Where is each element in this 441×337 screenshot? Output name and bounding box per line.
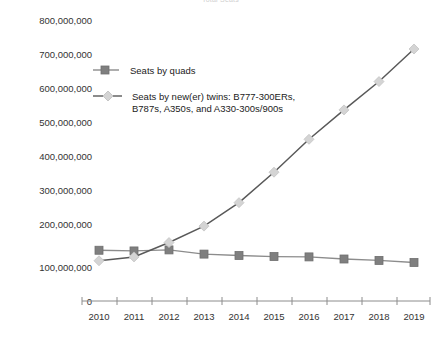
- x-tick-label: 2016: [298, 311, 319, 322]
- series-twins: [94, 44, 419, 266]
- x-tick-label: 2010: [88, 311, 109, 322]
- y-tick-label: 800,000,000: [39, 15, 92, 26]
- legend-label-twins-line1: Seats by new(er) twins: B777-300ERs,: [132, 91, 295, 102]
- data-point-marker: [340, 255, 348, 263]
- legend-marker-square: [101, 66, 109, 74]
- data-point-marker: [305, 253, 313, 261]
- x-tick-label: 2015: [263, 311, 284, 322]
- data-point-marker: [95, 246, 103, 254]
- data-point-marker: [270, 253, 278, 261]
- chart-legend: Seats by quads Seats by new(er) twins: B…: [93, 65, 295, 114]
- x-tick-label: 2013: [193, 311, 214, 322]
- x-axis-tick-labels: 2010 2011 2012 2013 2014 2015 2016 2017 …: [88, 311, 424, 322]
- x-tick-label: 2014: [228, 311, 249, 322]
- legend-item-twins[interactable]: Seats by new(er) twins: B777-300ERs, B78…: [93, 91, 295, 114]
- legend-label-twins-line2: B787s, A350s, and A330-300s/900s: [132, 103, 283, 114]
- x-tick-label: 2012: [158, 311, 179, 322]
- y-tick-label: 300,000,000: [39, 185, 92, 196]
- x-tick-label: 2019: [403, 311, 424, 322]
- y-tick-label: 600,000,000: [39, 83, 92, 94]
- series-quads: [95, 246, 418, 267]
- legend-marker-diamond: [103, 91, 113, 101]
- y-tick-label: 200,000,000: [39, 219, 92, 230]
- data-point-marker: [410, 259, 418, 267]
- data-point-marker: [94, 256, 104, 266]
- y-tick-label: 500,000,000: [39, 117, 92, 128]
- chart-svg: 800,000,000 700,000,000 600,000,000 500,…: [0, 0, 441, 337]
- data-point-marker: [375, 256, 383, 264]
- legend-label-quads: Seats by quads: [130, 65, 196, 76]
- data-point-marker: [199, 221, 209, 231]
- data-point-marker: [200, 250, 208, 258]
- x-axis: [82, 297, 430, 305]
- y-tick-label: 400,000,000: [39, 151, 92, 162]
- y-tick-label: 700,000,000: [39, 49, 92, 60]
- data-point-marker: [235, 252, 243, 260]
- series-layer: [94, 44, 419, 267]
- y-tick-label: 100,000,000: [39, 262, 92, 273]
- y-axis-tick-labels: 800,000,000 700,000,000 600,000,000 500,…: [39, 15, 92, 307]
- x-tick-label: 2011: [124, 311, 144, 322]
- series-line: [99, 49, 414, 261]
- legend-item-quads[interactable]: Seats by quads: [93, 65, 196, 76]
- chart-container: Total Seats 800,000,000 700,000,000 600,…: [0, 0, 441, 337]
- x-tick-label: 2018: [368, 311, 389, 322]
- x-tick-label: 2017: [333, 311, 354, 322]
